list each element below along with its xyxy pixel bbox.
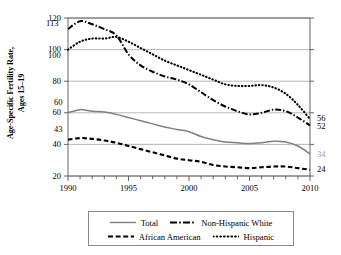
legend-row-1: Total Non-Hispanic White bbox=[89, 215, 293, 230]
y-tick-label-80: 80 bbox=[28, 76, 61, 86]
legend-swatch-non-hispanic-white bbox=[170, 218, 196, 227]
legend-row-2: African American Hispanic bbox=[89, 229, 293, 244]
series-line-hispanic bbox=[68, 37, 310, 119]
start-annotation-100: 100 bbox=[48, 50, 61, 60]
end-annotation-24: 24 bbox=[317, 164, 326, 174]
legend-swatch-african-american bbox=[108, 232, 134, 241]
y-tick-label-20: 20 bbox=[28, 171, 61, 181]
start-annotation-60: 60 bbox=[54, 97, 63, 107]
legend-entry-total: Total bbox=[110, 218, 159, 228]
y-tick-label-40: 40 bbox=[28, 139, 61, 149]
legend-label-hispanic: Hispanic bbox=[244, 232, 275, 242]
end-annotation-52: 52 bbox=[317, 121, 326, 131]
legend-label-total: Total bbox=[141, 218, 159, 228]
legend-entry-non-hispanic-white: Non-Hispanic White bbox=[170, 218, 272, 228]
y-tick-label-60: 60 bbox=[28, 107, 61, 117]
x-tick-label-2005: 2005 bbox=[230, 183, 270, 193]
series-line-african-american bbox=[68, 138, 310, 170]
legend-swatch-hispanic bbox=[213, 232, 239, 241]
x-tick-label-2010: 2010 bbox=[290, 183, 330, 193]
start-annotation-43: 43 bbox=[54, 124, 63, 134]
series-line-total bbox=[68, 110, 310, 154]
start-annotation-113: 113 bbox=[46, 18, 58, 28]
series-line-non-hispanic-white bbox=[68, 21, 310, 125]
x-tick-label-1990: 1990 bbox=[48, 183, 88, 193]
legend-label-african-american: African American bbox=[139, 232, 201, 242]
legend-label-non-hispanic-white: Non-Hispanic White bbox=[201, 218, 272, 228]
legend-entry-african-american: African American bbox=[108, 232, 201, 242]
x-tick-label-1995: 1995 bbox=[109, 183, 149, 193]
legend-swatch-total bbox=[110, 218, 136, 227]
legend-entry-hispanic: Hispanic bbox=[213, 232, 275, 242]
end-annotation-34: 34 bbox=[317, 149, 326, 159]
x-tick-label-2000: 2000 bbox=[169, 183, 209, 193]
chart-legend: Total Non-Hispanic White African America… bbox=[88, 211, 294, 246]
